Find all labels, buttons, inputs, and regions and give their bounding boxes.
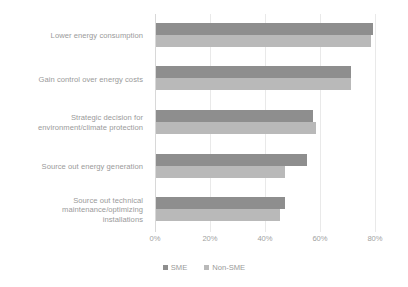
- category-label: Gain control over energy costs: [0, 75, 143, 85]
- x-tick-label: 0%: [150, 234, 161, 243]
- category-label: Strategic decision forenvironment/climat…: [0, 113, 143, 132]
- legend-label: Non-SME: [212, 263, 245, 272]
- bar-group: [156, 197, 376, 223]
- x-tick-label: 60%: [312, 234, 327, 243]
- bar-sme[interactable]: [156, 154, 307, 166]
- category-label-line: Source out technical: [0, 196, 143, 206]
- category-label: Source out technicalmaintenance/optimizi…: [0, 196, 143, 225]
- bar-non-sme[interactable]: [156, 122, 316, 134]
- legend-swatch-icon: [163, 265, 168, 270]
- category-label-line: Strategic decision for: [0, 113, 143, 123]
- legend-swatch-icon: [204, 265, 209, 270]
- bar-sme[interactable]: [156, 66, 351, 78]
- bar-non-sme[interactable]: [156, 209, 280, 221]
- category-label-line: Source out energy generation: [0, 162, 143, 172]
- plot-area: [155, 14, 375, 232]
- category-axis-labels: Lower energy consumptionGain control ove…: [0, 14, 150, 232]
- legend-item-non-sme[interactable]: Non-SME: [204, 263, 245, 272]
- bar-chart: Lower energy consumptionGain control ove…: [0, 0, 408, 287]
- bar-group: [156, 66, 376, 92]
- category-label-line: Lower energy consumption: [0, 31, 143, 41]
- chart-legend: SMENon-SME: [0, 263, 408, 272]
- value-axis-tick-labels: 0%20%40%60%80%: [155, 234, 375, 248]
- category-label-line: Gain control over energy costs: [0, 75, 143, 85]
- category-label: Source out energy generation: [0, 162, 143, 172]
- bar-group: [156, 23, 376, 49]
- bar-sme[interactable]: [156, 23, 373, 35]
- x-tick-label: 40%: [257, 234, 272, 243]
- x-tick-label: 80%: [367, 234, 382, 243]
- bar-non-sme[interactable]: [156, 166, 285, 178]
- bar-sme[interactable]: [156, 197, 285, 209]
- category-label-line: environment/climate protection: [0, 123, 143, 133]
- x-tick-label: 20%: [202, 234, 217, 243]
- bar-group: [156, 110, 376, 136]
- category-label: Lower energy consumption: [0, 31, 143, 41]
- category-label-line: maintenance/optimizing: [0, 205, 143, 215]
- bar-non-sme[interactable]: [156, 35, 371, 47]
- legend-item-sme[interactable]: SME: [163, 263, 187, 272]
- bar-group: [156, 154, 376, 180]
- bar-sme[interactable]: [156, 110, 313, 122]
- legend-label: SME: [171, 263, 187, 272]
- category-label-line: installations: [0, 215, 143, 225]
- bar-non-sme[interactable]: [156, 78, 351, 90]
